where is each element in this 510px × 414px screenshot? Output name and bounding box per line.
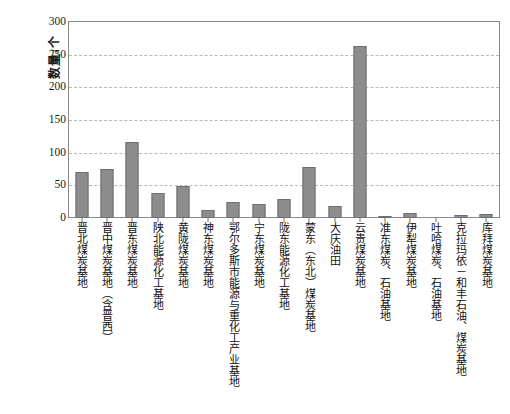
x-tick-label: 鄂尔多斯市能源与重化工产业基地 [227, 222, 240, 387]
bar-slot [398, 22, 423, 218]
bar-slot [120, 22, 145, 218]
bar-slot [221, 22, 246, 218]
bar-slot [246, 22, 271, 218]
bar-slot [170, 22, 195, 218]
bar-slot [373, 22, 398, 218]
x-tick-label: 伊犁煤炭基地 [404, 222, 417, 288]
y-tick-label-50: 50 [55, 179, 67, 189]
x-tick-label: 黄陇煤炭基地 [177, 222, 190, 288]
x-tick-label: 陕北能源化工基地 [151, 222, 164, 310]
bar-series [69, 22, 499, 218]
x-tick-label: 晋中煤炭基地（含晋西） [101, 222, 114, 343]
bar[interactable] [277, 199, 290, 218]
x-tick-label: 宁东煤炭基地 [252, 222, 265, 288]
bar[interactable] [328, 206, 341, 218]
y-tick-label-0: 0 [60, 212, 66, 222]
bar-chart-figure: 数量/个 050100150200250300 晋北煤炭基地晋中煤炭基地（含晋西… [0, 10, 510, 392]
x-tick-label: 大庆油田 [328, 222, 341, 266]
x-tick-label: 吐哈煤炭、石油基地 [430, 222, 443, 321]
bar-slot [195, 22, 220, 218]
y-tick-label-150: 150 [49, 114, 66, 124]
bar-slot [94, 22, 119, 218]
bar-slot [69, 22, 94, 218]
bar[interactable] [202, 210, 215, 218]
bar-slot [423, 22, 448, 218]
x-tick-label: 云贵煤炭基地 [354, 222, 367, 288]
bar[interactable] [303, 167, 316, 218]
y-tick-label-200: 200 [49, 81, 66, 91]
y-axis-tick-labels: 050100150200250300 [36, 21, 66, 218]
bar[interactable] [126, 142, 139, 218]
x-tick-label: 晋北煤炭基地 [75, 222, 88, 288]
bar-slot [474, 22, 499, 218]
y-tick-label-250: 250 [49, 49, 66, 59]
bar-slot [271, 22, 296, 218]
bar-slot [322, 22, 347, 218]
x-tick-label: 晋东煤炭基地 [126, 222, 139, 288]
bar[interactable] [176, 186, 189, 218]
bar[interactable] [151, 193, 164, 218]
x-tick-label: 陇东能源化工基地 [278, 222, 291, 310]
y-tick-label-100: 100 [49, 147, 66, 157]
caption-cut-strip [0, 396, 510, 414]
x-tick-label: 准东煤炭、石油基地 [379, 222, 392, 321]
bar[interactable] [100, 169, 113, 218]
x-axis-tick-labels: 晋北煤炭基地晋中煤炭基地（含晋西）晋东煤炭基地陕北能源化工基地黄陇煤炭基地神东煤… [69, 222, 499, 390]
x-tick-label: 蒙东（东北）煤炭基地 [303, 222, 316, 332]
bar-slot [297, 22, 322, 218]
bar-slot [448, 22, 473, 218]
x-tick-label: 克拉玛依－和丰石油、煤炭基地 [455, 222, 468, 376]
bar[interactable] [353, 46, 366, 218]
bar-slot [145, 22, 170, 218]
y-tick-label-300: 300 [49, 16, 66, 26]
x-tick-label: 神东煤炭基地 [202, 222, 215, 288]
bar[interactable] [227, 202, 240, 218]
bar[interactable] [252, 204, 265, 218]
bar-slot [347, 22, 372, 218]
x-tick-label: 库拜煤炭基地 [480, 222, 493, 288]
bar[interactable] [75, 172, 88, 218]
